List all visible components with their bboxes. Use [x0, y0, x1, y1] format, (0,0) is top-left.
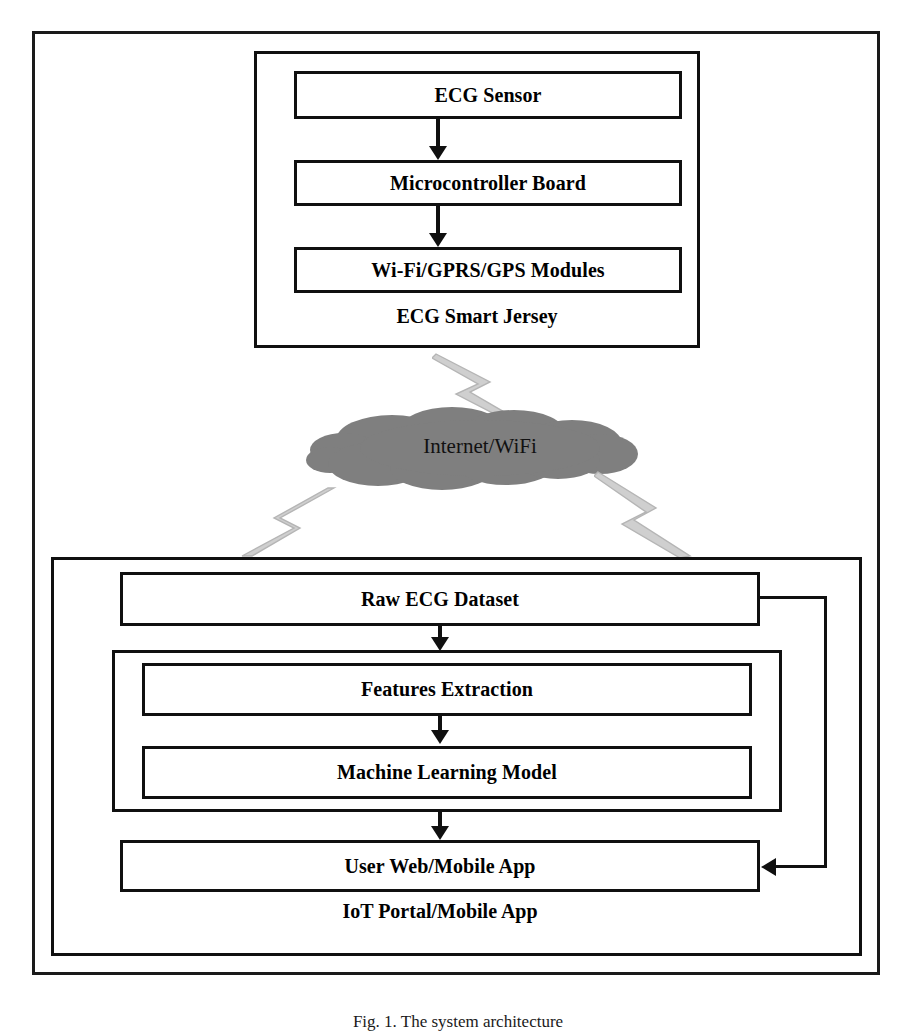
block-machine-learning-model[interactable]: Machine Learning Model	[142, 746, 752, 799]
block-features-extraction[interactable]: Features Extraction	[142, 663, 752, 716]
internet-cloud-label: Internet/WiFi	[300, 434, 660, 459]
feedback-loop-top-segment	[757, 596, 827, 599]
block-wifi-gprs-gps-modules[interactable]: Wi-Fi/GPRS/GPS Modules	[294, 247, 682, 293]
downlink-lightning-left-icon	[228, 486, 338, 560]
block-wifi-gprs-gps-modules-label: Wi-Fi/GPRS/GPS Modules	[371, 259, 605, 282]
block-microcontroller-board[interactable]: Microcontroller Board	[294, 160, 682, 206]
block-user-web-mobile-app[interactable]: User Web/Mobile App	[120, 840, 760, 892]
ecg-smart-jersey-caption: ECG Smart Jersey	[254, 305, 700, 328]
block-ecg-sensor-label: ECG Sensor	[434, 84, 541, 107]
iot-portal-caption: IoT Portal/Mobile App	[120, 900, 760, 923]
block-user-web-mobile-app-label: User Web/Mobile App	[344, 855, 535, 878]
figure-page: ECG Sensor Microcontroller Board Wi-Fi/G…	[0, 0, 916, 1032]
feedback-loop-right-segment	[824, 596, 827, 868]
block-raw-ecg-dataset[interactable]: Raw ECG Dataset	[120, 572, 760, 626]
downlink-lightning-icon	[594, 470, 726, 560]
feedback-loop-arrowhead-icon	[761, 858, 776, 876]
block-machine-learning-model-label: Machine Learning Model	[337, 761, 557, 784]
block-ecg-sensor[interactable]: ECG Sensor	[294, 71, 682, 119]
block-features-extraction-label: Features Extraction	[361, 678, 533, 701]
block-microcontroller-board-label: Microcontroller Board	[390, 172, 586, 195]
feedback-loop-bottom-segment	[776, 865, 827, 868]
block-raw-ecg-dataset-label: Raw ECG Dataset	[361, 588, 519, 611]
figure-caption: Fig. 1. The system architecture	[0, 1012, 916, 1032]
